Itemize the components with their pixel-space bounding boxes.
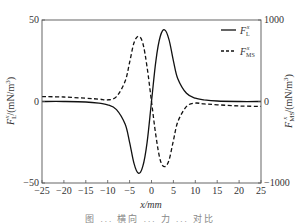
x-tick-label: −15 — [78, 185, 94, 196]
x-tick-label: 20 — [234, 185, 244, 196]
left-y-tick-label: 50 — [29, 14, 39, 25]
line-chart: −25−20−15−10−50510152025 −50050 −1000010… — [0, 0, 300, 223]
left-y-tick-label: −50 — [23, 177, 39, 188]
legend: FLx FMSx — [221, 24, 255, 58]
right-y-axis-label: FMSx/(mN/m3) — [281, 74, 296, 129]
left-y-axis-label: FLx/(mN/m3) — [3, 77, 18, 126]
svg-text:FMSx/(mN/m3): FMSx/(mN/m3) — [281, 74, 296, 129]
left-y-tick-label: 0 — [34, 96, 39, 107]
legend-label-fms: FMSx — [239, 45, 255, 58]
right-y-tick-label: 1000 — [264, 14, 284, 25]
figure-caption: 图 ... 横向 ... 力 ... 对比 — [0, 212, 300, 223]
x-axis-label: x/mm — [139, 199, 162, 210]
right-y-tick-label: −1000 — [264, 177, 290, 188]
x-tick-label: 15 — [212, 185, 222, 196]
x-tick-label: 5 — [171, 185, 176, 196]
x-tick-label: −10 — [100, 185, 116, 196]
legend-label-fl: FLx — [239, 24, 250, 37]
x-tick-label: −20 — [56, 185, 72, 196]
right-y-tick-label: 0 — [264, 96, 269, 107]
x-axis-ticks: −25−20−15−10−50510152025 — [34, 180, 266, 196]
x-tick-label: 10 — [190, 185, 200, 196]
x-tick-label: 0 — [149, 185, 154, 196]
svg-text:FLx/(mN/m3): FLx/(mN/m3) — [3, 77, 18, 126]
x-tick-label: −5 — [124, 185, 135, 196]
